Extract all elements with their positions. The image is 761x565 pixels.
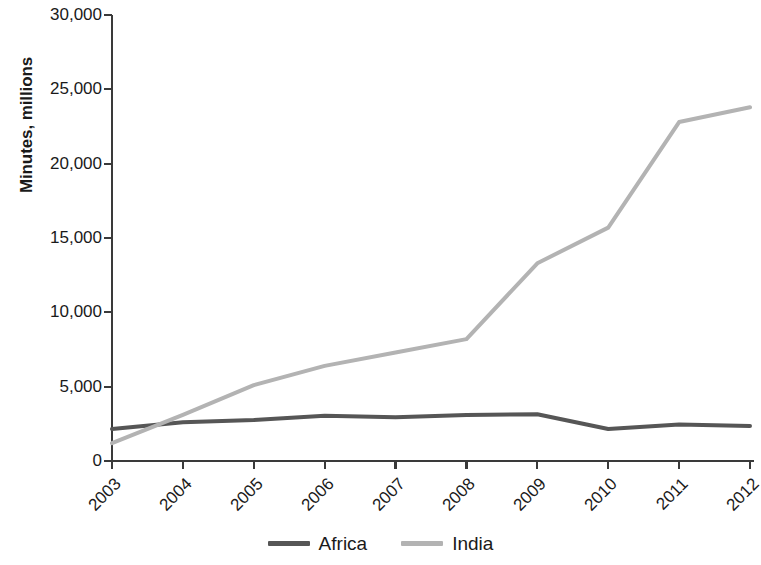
legend-item-africa: Africa [268,534,368,553]
legend-item-india: India [401,534,493,553]
y-axis-tick-label: 20,000 [28,155,102,172]
legend-swatch-india [401,541,443,546]
y-axis-tick-label-text: 5,000 [28,378,102,395]
series-line-india [112,107,750,443]
y-axis-tick-label-text: 30,000 [28,6,102,23]
y-axis-tick-label: 25,000 [28,80,102,97]
y-axis-tick-label-text: 0 [28,452,102,469]
data-series [112,107,750,443]
legend-swatch-africa [268,541,310,546]
chart-legend: Africa India [0,534,761,553]
legend-label-africa: Africa [319,534,368,553]
y-axis-tick-label: 10,000 [28,303,102,320]
series-line-africa [112,414,750,429]
y-axis-tick-label: 5,000 [28,378,102,395]
y-axis-tick-label: 30,000 [28,6,102,23]
legend-label-india: India [452,534,493,553]
y-axis-tick-label: 0 [28,452,102,469]
y-axis-tick-label-text: 15,000 [28,229,102,246]
y-axis-tick-label-text: 10,000 [28,303,102,320]
axes [104,15,754,469]
y-axis-tick-label-text: 25,000 [28,80,102,97]
y-axis-tick-label-text: 20,000 [28,155,102,172]
y-axis-tick-label: 15,000 [28,229,102,246]
line-chart: Minutes, millions 05,00010,00015,00020,0… [0,0,761,565]
y-axis-title: Minutes, millions [10,0,44,348]
